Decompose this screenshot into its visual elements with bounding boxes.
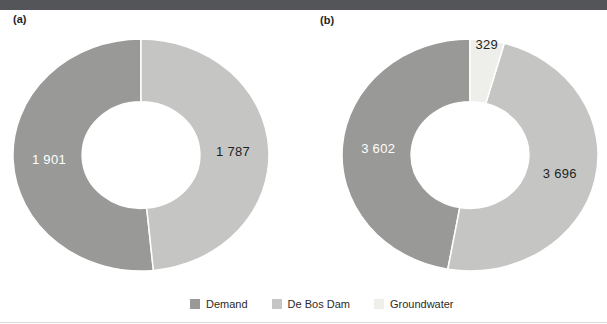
chart-a-title: (a) (13, 13, 26, 25)
chart-b-title: (b) (320, 14, 334, 26)
value-label-de-bos-dam: 1 787 (216, 143, 250, 158)
value-label-de-bos-dam: 3 696 (543, 166, 577, 181)
legend-item-de-bos-dam: De Bos Dam (272, 298, 350, 310)
legend-swatch-groundwater (374, 299, 384, 309)
legend-item-groundwater: Groundwater (374, 298, 454, 310)
figure-top-bar (0, 0, 607, 10)
chart-legend: Demand De Bos Dam Groundwater (190, 298, 454, 310)
value-label-demand: 3 602 (361, 140, 395, 155)
legend-item-demand: Demand (190, 298, 248, 310)
legend-label-groundwater: Groundwater (390, 298, 454, 310)
figure-canvas: (a) (b) 1 9011 787 3 6023 696329 Demand … (0, 0, 607, 324)
legend-label-demand: Demand (206, 298, 248, 310)
figure-bottom-rule (0, 322, 607, 323)
value-label-demand: 1 901 (32, 152, 66, 167)
legend-label-de-bos-dam: De Bos Dam (288, 298, 350, 310)
legend-swatch-demand (190, 299, 200, 309)
legend-swatch-de-bos-dam (272, 299, 282, 309)
value-label-groundwater: 329 (475, 36, 498, 51)
donut-chart-b: 3 6023 696329 (342, 39, 598, 271)
donut-chart-a: 1 9011 787 (13, 39, 269, 271)
